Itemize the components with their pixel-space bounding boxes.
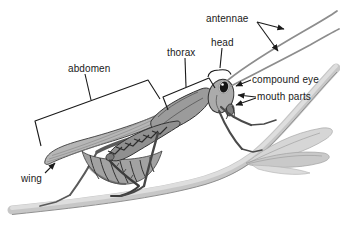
head-brace <box>208 70 231 77</box>
grasshopper-illustration <box>0 0 340 227</box>
label-thorax: thorax <box>167 47 195 58</box>
mouth-parts-arrow-lower <box>236 98 256 105</box>
mouth-parts-arrow-upper <box>238 95 256 97</box>
label-compound-eye: compound eye <box>252 74 319 85</box>
abdomen-leader-line <box>85 74 91 100</box>
label-head: head <box>211 37 234 48</box>
head-leader-line <box>220 48 222 68</box>
label-abdomen: abdomen <box>68 63 110 74</box>
label-antennae: antennae <box>206 13 249 24</box>
thorax-leader-line <box>185 58 186 87</box>
label-wing: wing <box>21 173 42 184</box>
diagram-grasshopper-anatomy: antennae head thorax abdomen compound ey… <box>0 0 340 227</box>
label-mouth-parts: mouth parts <box>257 91 311 102</box>
